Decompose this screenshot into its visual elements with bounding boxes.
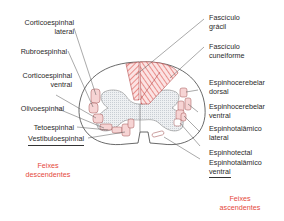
label-olivoespinhal: Olivoespinhal — [21, 105, 64, 114]
label-line: dorsal — [209, 88, 265, 97]
label-espinhotalamico-ventral: Espinhotalâmico ventral — [209, 159, 262, 176]
label-corticoespinhal-ventral: Corticoespinhal ventral — [22, 72, 72, 89]
label-line: cuneiforme — [209, 52, 245, 61]
label-espinhocerebelar-dorsal: Espinhocerebelar dorsal — [209, 79, 265, 96]
label-line: Tetoespinhal — [34, 124, 74, 133]
label-vestibuloespinhal: Vestibuloespinhal — [28, 135, 84, 146]
group-label-line: ascendentes — [210, 204, 270, 213]
label-line: Olivoespinhal — [21, 105, 64, 114]
group-label-line: descendentes — [18, 171, 78, 180]
label-fasciculo-cuneiforme: Fascículo cuneiforme — [209, 43, 245, 60]
label-line: Espinhotectal — [209, 149, 252, 158]
label-line: lateral — [24, 28, 74, 37]
label-corticoespinhal-lateral: Corticoespinhal lateral — [24, 19, 74, 36]
label-line: ventral — [209, 112, 265, 121]
label-line: Vestibuloespinhal — [28, 135, 84, 146]
label-tetoespinhal: Tetoespinhal — [34, 124, 74, 133]
label-fasciculo-gracil: Fascículo grácil — [209, 14, 240, 31]
group-label-descending: Feixes descendentes — [18, 162, 78, 179]
label-rubroespinhal: Rubroespinhal — [21, 48, 67, 57]
label-line: ventral — [22, 81, 72, 90]
label-line: ventral — [209, 167, 231, 178]
label-espinhotalamico-lateral: Espinhotalâmico lateral — [209, 125, 262, 142]
label-line: grácil — [209, 23, 240, 32]
label-line: Rubroespinhal — [21, 48, 67, 57]
group-label-ascending: Feixes ascendentes — [210, 195, 270, 212]
label-line: lateral — [209, 134, 262, 143]
label-espinhocerebelar-ventral: Espinhocerebelar ventral — [209, 103, 265, 120]
label-espinhotectal: Espinhotectal — [209, 149, 252, 158]
